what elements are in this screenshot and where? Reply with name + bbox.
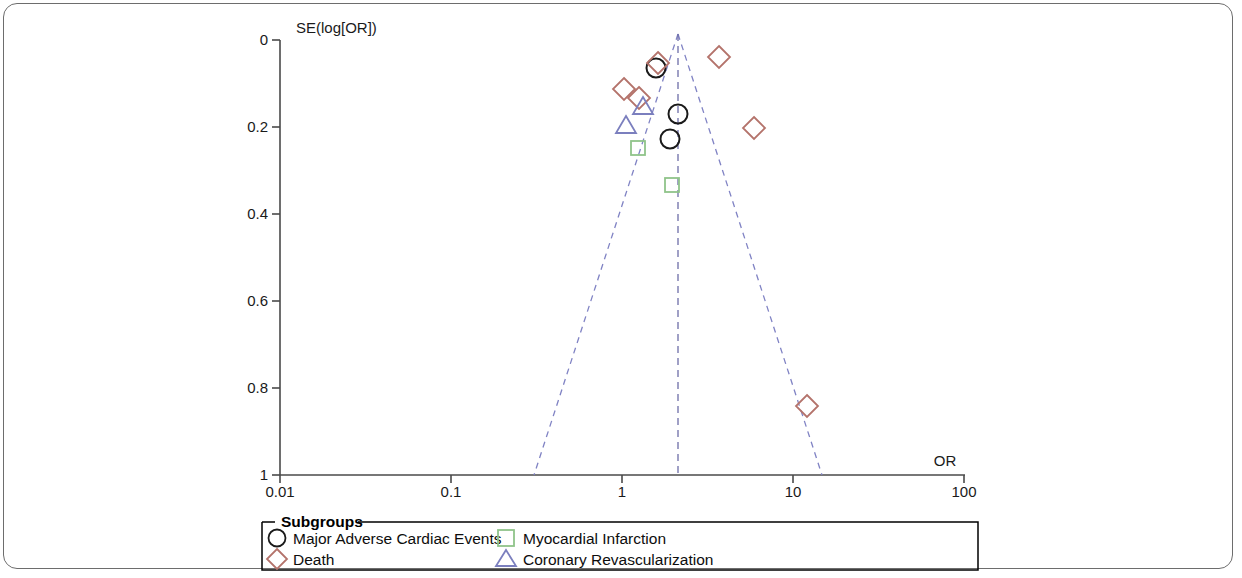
- legend-title: Subgroups: [281, 513, 363, 530]
- y-tick-label-1: 1: [260, 466, 268, 483]
- series-coronary-revascularization: [616, 97, 653, 133]
- y-tick-label-0-4: 0.4: [247, 205, 268, 222]
- y-tick-label-0: 0: [260, 31, 268, 48]
- series-major-adverse-cardiac-events: [647, 59, 688, 149]
- data-point-mi: [665, 178, 679, 192]
- y-axis-ticks: [272, 40, 280, 475]
- data-point-death: [628, 87, 650, 109]
- series-death: [613, 46, 818, 417]
- legend: Subgroups Major Adverse Cardiac Events D…: [262, 513, 978, 570]
- x-tick-label-1: 1: [618, 483, 626, 500]
- data-point-death: [796, 395, 818, 417]
- y-tick-label-0-8: 0.8: [247, 379, 268, 396]
- data-point-revasc: [616, 116, 636, 133]
- x-axis-title: OR: [934, 452, 957, 469]
- x-tick-label-10: 10: [785, 483, 802, 500]
- y-tick-label-0-2: 0.2: [247, 118, 268, 135]
- y-axis-title: SE(log[OR]): [296, 19, 377, 36]
- legend-marker-circle-icon: [269, 530, 286, 547]
- plot-canvas: 0 0.2 0.4 0.6 0.8 1 SE(log[OR]) 0.01 0.1…: [0, 0, 1242, 578]
- legend-label-death: Death: [293, 551, 334, 568]
- x-axis-ticks: [280, 475, 964, 483]
- x-tick-label-100: 100: [951, 483, 976, 500]
- legend-label-mi: Myocardial Infarction: [523, 530, 666, 547]
- funnel-guides: [534, 34, 822, 475]
- legend-marker-diamond-icon: [267, 549, 287, 569]
- data-point-death: [743, 117, 765, 139]
- funnel-left-line: [534, 34, 678, 475]
- y-tick-label-0-6: 0.6: [247, 292, 268, 309]
- x-tick-label-0-01: 0.01: [265, 483, 294, 500]
- data-point-mace: [661, 130, 680, 149]
- data-point-death: [708, 46, 730, 68]
- data-point-death: [613, 78, 635, 100]
- x-tick-label-0-1: 0.1: [441, 483, 462, 500]
- funnel-right-line: [678, 34, 822, 475]
- legend-label-mace: Major Adverse Cardiac Events: [293, 530, 502, 547]
- legend-marker-triangle-icon: [496, 550, 516, 566]
- funnel-plot-figure: 0 0.2 0.4 0.6 0.8 1 SE(log[OR]) 0.01 0.1…: [0, 0, 1242, 578]
- legend-label-revasc: Coronary Revascularization: [523, 551, 713, 568]
